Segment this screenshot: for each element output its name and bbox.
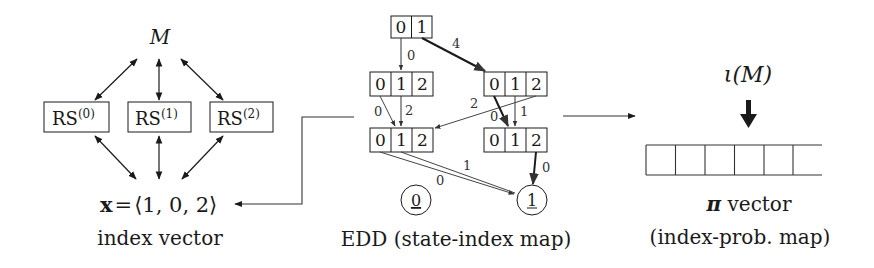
index-vector: x=⟨1, 0, 2⟩: [100, 192, 217, 217]
svg-text:0: 0: [375, 74, 386, 94]
edd-to-index-connector: [235, 117, 354, 204]
svg-text:2: 2: [417, 130, 428, 150]
edd-graph: 0 1 0 1 2 0 1 2 0 1 2: [341, 16, 572, 251]
svg-text:1: 1: [520, 104, 528, 119]
edd-node-top: 0 1: [391, 16, 432, 38]
svg-text:2: 2: [470, 96, 478, 111]
pi-vector-caption: π vector: [706, 192, 792, 216]
rs-box-1: RS(1): [128, 102, 191, 132]
svg-text:0: 0: [374, 104, 382, 119]
edd-node-mid-right: 0 1 2: [484, 72, 547, 96]
edd-terminal-0: 0: [401, 185, 431, 215]
iota-down-arrow: [740, 100, 757, 128]
rs-superscript: (0): [78, 107, 95, 121]
edd-caption: EDD (state-index map): [341, 227, 572, 251]
svg-text:RS(2): RS(2): [217, 107, 260, 129]
svg-text:1: 1: [510, 130, 521, 150]
rs-box-0: RS(0): [44, 102, 109, 132]
svg-text:2: 2: [531, 74, 542, 94]
state-space-structure: M RS(0) RS(1) RS(2) x=⟨1, 0, 2⟩ index: [44, 25, 273, 250]
iota-label: ι(M): [724, 62, 772, 87]
svg-text:0: 0: [411, 191, 421, 210]
svg-text:1: 1: [417, 17, 428, 37]
svg-text:0: 0: [489, 74, 500, 94]
svg-text:1: 1: [510, 74, 521, 94]
rs-superscript: (1): [161, 107, 178, 121]
index-vector-caption: index vector: [97, 226, 223, 250]
rs-base: RS: [52, 108, 78, 129]
svg-text:0: 0: [490, 109, 498, 124]
edd-edges: [380, 38, 536, 194]
rs-superscript: (2): [243, 107, 260, 121]
rs-index-arrows: [95, 136, 223, 179]
svg-text:1: 1: [396, 130, 407, 150]
model-label: M: [149, 25, 171, 49]
svg-text:0: 0: [407, 48, 415, 63]
svg-text:0: 0: [489, 130, 500, 150]
svg-text:RS(1): RS(1): [135, 107, 178, 129]
svg-text:1: 1: [527, 191, 537, 210]
svg-text:4: 4: [452, 36, 460, 51]
diagram-canvas: M RS(0) RS(1) RS(2) x=⟨1, 0, 2⟩ index: [0, 0, 874, 268]
edd-terminal-1: 1: [517, 185, 547, 215]
svg-text:0: 0: [375, 130, 386, 150]
svg-text:0: 0: [542, 160, 550, 175]
pi-vector-subcaption: (index-prob. map): [650, 225, 831, 249]
svg-text:2: 2: [531, 130, 542, 150]
svg-text:0: 0: [396, 17, 407, 37]
svg-text:2: 2: [417, 74, 428, 94]
svg-text:1: 1: [396, 74, 407, 94]
svg-text:RS(0): RS(0): [52, 107, 95, 129]
svg-text:2: 2: [405, 103, 413, 118]
model-rs-arrows: [95, 59, 223, 100]
pi-vector-cells: [646, 145, 822, 175]
svg-text:0: 0: [436, 173, 444, 188]
rs-base: RS: [217, 108, 243, 129]
edd-node-mid-left: 0 1 2: [370, 72, 433, 96]
rs-base: RS: [135, 108, 161, 129]
svg-text:1: 1: [463, 158, 471, 173]
edd-node-low-left: 0 1 2: [370, 128, 433, 152]
edd-node-low-right: 0 1 2: [484, 128, 547, 152]
pi-vector-section: ι(M) π vector (index-prob. map): [646, 62, 830, 249]
rs-box-2: RS(2): [210, 102, 273, 132]
